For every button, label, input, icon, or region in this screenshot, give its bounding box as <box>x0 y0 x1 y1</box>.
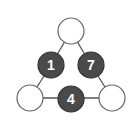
node-right-middle: 7 <box>78 52 104 78</box>
node-top <box>58 18 84 44</box>
node-bottom-middle: 4 <box>58 86 84 112</box>
triangle-puzzle-diagram: 1 7 4 <box>0 0 136 124</box>
node-bottom-middle-value: 4 <box>67 91 75 107</box>
node-right-middle-value: 7 <box>87 57 95 73</box>
node-left-middle: 1 <box>38 52 64 78</box>
node-left-middle-value: 1 <box>47 57 55 73</box>
node-bottom-left <box>17 85 43 111</box>
node-bottom-right <box>99 85 125 111</box>
